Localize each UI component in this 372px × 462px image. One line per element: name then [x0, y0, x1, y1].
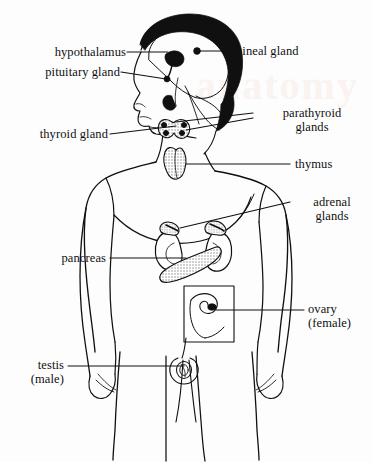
label-hypothalamus: hypothalamus [14, 45, 126, 59]
hypothalamus-marker [165, 51, 184, 67]
label-pineal-gland: pineal gland [236, 44, 346, 58]
endocrine-system-figure: anatomy [0, 0, 372, 462]
testis-marker [170, 338, 198, 384]
ovary-inset-box [184, 286, 234, 342]
legs [113, 352, 259, 461]
label-thyroid-gland: thyroid gland [0, 127, 108, 141]
adrenal-gland-marker [160, 222, 179, 235]
label-parathyroid-glands: parathyroid glands [256, 106, 368, 134]
label-pancreas: pancreas [0, 251, 106, 265]
label-adrenal-glands: adrenal glands [295, 195, 369, 223]
ovary-marker [208, 304, 216, 310]
parathyroid-dot [180, 131, 185, 136]
leader-adrenal [180, 202, 290, 228]
thyroid-gland-marker [158, 120, 190, 139]
label-pituitary-gland: pituitary gland [8, 65, 120, 79]
head-profile [134, 14, 243, 171]
label-testis: testis (male) [0, 358, 64, 386]
parathyroid-dot [164, 131, 169, 136]
label-ovary: ovary (female) [308, 302, 370, 330]
label-thymus: thymus [295, 157, 365, 171]
thymus-marker [164, 148, 186, 180]
leader-pituitary [121, 72, 166, 79]
adrenal-gland-marker [205, 221, 226, 235]
parathyroid-dot [182, 123, 187, 128]
